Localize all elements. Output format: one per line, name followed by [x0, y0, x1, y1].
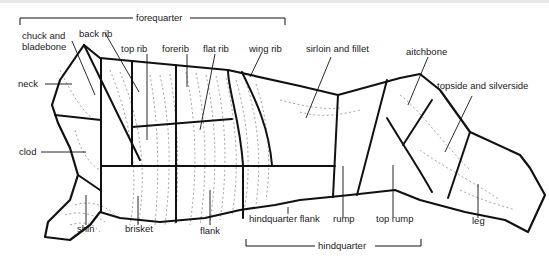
label-flat-rib: flat rib: [203, 43, 229, 54]
label-leg: leg: [472, 215, 485, 226]
label-shin: shin: [77, 223, 94, 234]
label-wing-rib: wing rib: [249, 43, 282, 54]
label-chuck-and-bladebone: chuck and bladebone: [22, 30, 74, 52]
label-forerib: forerib: [162, 43, 189, 54]
label-brisket: brisket: [125, 223, 153, 234]
carcass-outline: [45, 45, 545, 240]
label-topside-and-silverside: topside and silverside: [437, 80, 528, 91]
beef-cuts-diagram: forequarter hindquarter chuck and bladeb…: [0, 0, 549, 264]
hindquarter-label: hindquarter: [316, 240, 368, 251]
label-top-rib: top rib: [121, 43, 147, 54]
label-top-rump: top rump: [376, 213, 414, 224]
label-hindquarter-flank: hindquarter flank: [249, 213, 320, 224]
label-clod: clod: [19, 146, 36, 157]
forequarter-label: forequarter: [134, 12, 184, 23]
label-neck: neck: [18, 78, 38, 89]
label-flank: flank: [200, 225, 220, 236]
label-back-rib: back rib: [79, 28, 112, 39]
label-aitchbone: aitchbone: [406, 46, 447, 57]
label-sirloin-and-fillet: sirloin and fillet: [306, 43, 369, 54]
label-rump: rump: [333, 213, 355, 224]
